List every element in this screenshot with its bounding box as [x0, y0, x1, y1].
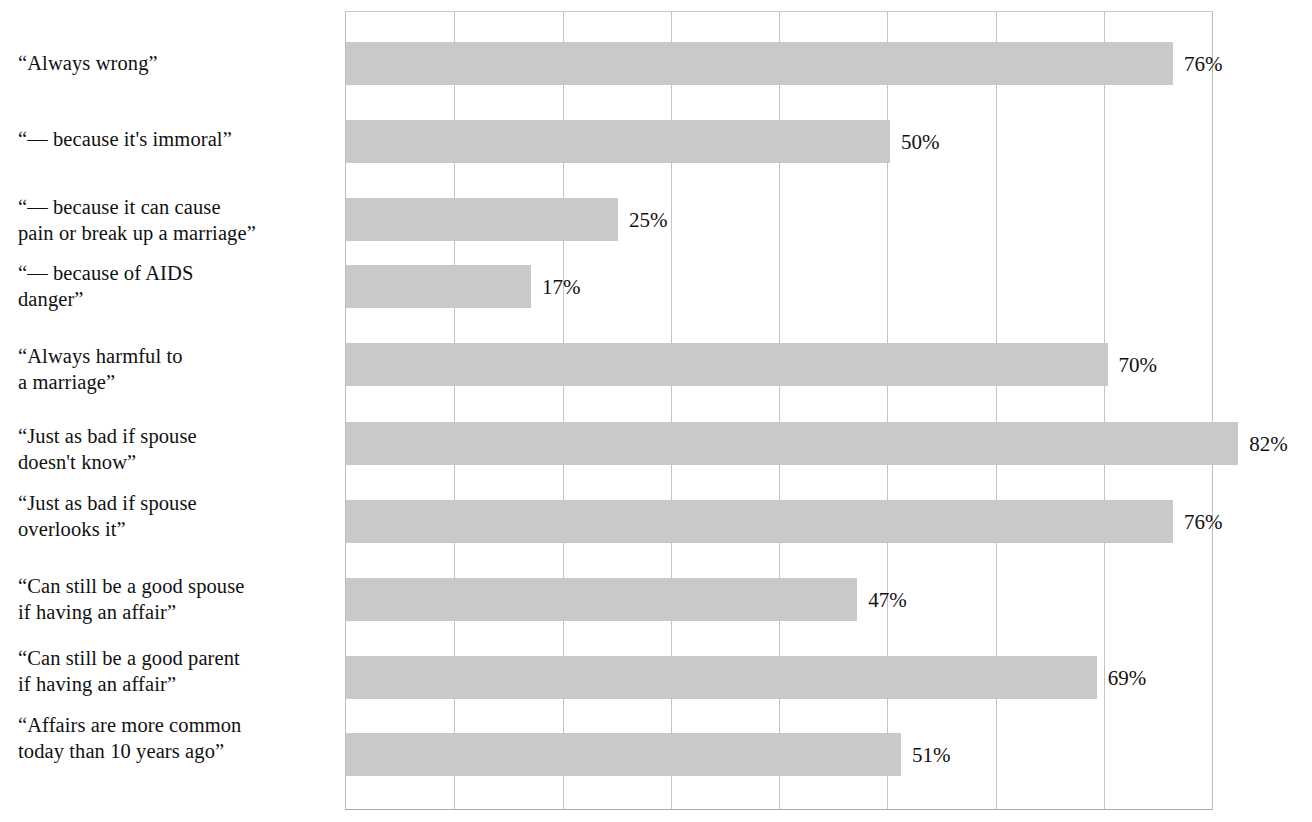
bar-value-label: 76%	[1184, 53, 1223, 74]
bar-value-label: 70%	[1119, 354, 1158, 375]
bar-value-label: 50%	[901, 131, 940, 152]
bar-row[interactable]: 51%	[0, 733, 1312, 776]
bar[interactable]	[346, 120, 890, 163]
bar-value-label: 17%	[542, 276, 581, 297]
bar[interactable]	[346, 422, 1238, 465]
bar[interactable]	[346, 500, 1173, 543]
bar[interactable]	[346, 343, 1108, 386]
bar-row[interactable]: 25%	[0, 198, 1312, 241]
horizontal-bar-chart: “Always wrong”“— because it's immoral”“—…	[0, 0, 1312, 822]
bar[interactable]	[346, 656, 1097, 699]
bar-value-label: 51%	[912, 744, 951, 765]
bar-value-label: 69%	[1108, 667, 1147, 688]
bar[interactable]	[346, 198, 618, 241]
bar[interactable]	[346, 578, 857, 621]
bar-row[interactable]: 82%	[0, 422, 1312, 465]
bar-row[interactable]: 47%	[0, 578, 1312, 621]
bar-row[interactable]: 69%	[0, 656, 1312, 699]
bar-value-label: 76%	[1184, 511, 1223, 532]
bar[interactable]	[346, 733, 901, 776]
bar-row[interactable]: 76%	[0, 500, 1312, 543]
bar-value-label: 47%	[868, 589, 907, 610]
bar-row[interactable]: 76%	[0, 42, 1312, 85]
bar-row[interactable]: 70%	[0, 343, 1312, 386]
bar-row[interactable]: 50%	[0, 120, 1312, 163]
bar-value-label: 82%	[1249, 433, 1288, 454]
bar-value-label: 25%	[629, 209, 668, 230]
bar[interactable]	[346, 265, 531, 308]
bar[interactable]	[346, 42, 1173, 85]
bar-row[interactable]: 17%	[0, 265, 1312, 308]
